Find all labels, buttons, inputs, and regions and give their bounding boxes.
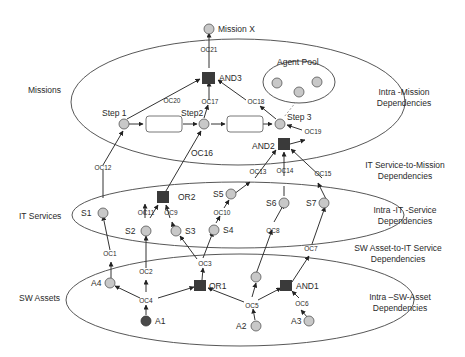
gate-or1[interactable]: [194, 280, 206, 291]
svg-text:AND1: AND1: [296, 281, 319, 291]
svg-text:A1: A1: [155, 316, 166, 326]
svg-text:OC14: OC14: [277, 167, 294, 174]
svg-text:S2: S2: [125, 226, 136, 236]
layer-label-it-services: IT Services: [19, 211, 61, 221]
svg-text:OC5: OC5: [245, 302, 259, 309]
svg-text:OC2: OC2: [139, 268, 153, 275]
svg-text:OC15: OC15: [315, 170, 332, 177]
layer-label-missions: Missions: [28, 85, 61, 95]
svg-text:A4: A4: [91, 278, 102, 288]
svg-text:Step 3: Step 3: [287, 112, 312, 122]
svg-text:S7: S7: [306, 198, 317, 208]
svg-text:OC20: OC20: [164, 97, 181, 104]
node-step1[interactable]: [119, 119, 129, 129]
svg-text:OC8: OC8: [266, 227, 280, 234]
gate-and3[interactable]: [202, 72, 215, 84]
dependency-label-it-to-mission: IT Service-to-Mission Dependencies: [365, 160, 445, 181]
step-process-box-1: [146, 116, 182, 132]
gate-and1[interactable]: [280, 280, 292, 291]
svg-text:Intra -Mission: Intra -Mission: [378, 87, 429, 97]
svg-text:Dependencies: Dependencies: [378, 171, 432, 181]
svg-text:IT Service-to-Mission: IT Service-to-Mission: [365, 160, 445, 170]
oc-labels: OC21 OC20 OC17 OC18 OC19 OC16 OC12 OC13 …: [95, 46, 332, 309]
svg-text:OR2: OR2: [178, 192, 196, 202]
svg-text:Mission X: Mission X: [218, 24, 255, 34]
node-a2[interactable]: [251, 321, 261, 331]
dependency-label-sw-to-it: SW Asset-to-IT Service Dependencies: [354, 243, 442, 264]
svg-text:Intra -IT -Service: Intra -IT -Service: [373, 205, 436, 215]
dependency-label-intra-it: Intra -IT -Service Dependencies: [373, 205, 436, 226]
node-a4[interactable]: [105, 278, 115, 288]
svg-text:Dependencies: Dependencies: [378, 216, 432, 226]
svg-text:OC11: OC11: [138, 209, 155, 216]
svg-text:Step 1: Step 1: [102, 108, 127, 118]
svg-text:S5: S5: [213, 189, 224, 199]
node-s6[interactable]: [279, 198, 289, 208]
svg-text:OC21: OC21: [201, 46, 218, 53]
svg-text:OR1: OR1: [209, 281, 227, 291]
svg-text:Intra –SW-Asset: Intra –SW-Asset: [369, 292, 431, 302]
svg-text:S1: S1: [81, 208, 92, 218]
agent-2[interactable]: [294, 87, 304, 97]
node-s3[interactable]: [171, 226, 181, 236]
layer-label-sw-assets: SW Assets: [19, 293, 60, 303]
agent-1[interactable]: [272, 78, 282, 88]
svg-text:Step2: Step2: [181, 108, 203, 118]
node-s5[interactable]: [226, 189, 236, 199]
gate-or2[interactable]: [157, 191, 169, 203]
svg-text:OC16: OC16: [191, 148, 213, 158]
svg-text:OC17: OC17: [202, 98, 219, 105]
dependency-label-intra-mission: Intra -Mission Dependencies: [377, 87, 431, 108]
node-mission-x[interactable]: [204, 24, 214, 34]
node-step3[interactable]: [275, 119, 285, 129]
node-unlabeled-asset[interactable]: [251, 272, 261, 282]
gate-and2[interactable]: [278, 138, 290, 150]
svg-text:OC3: OC3: [198, 260, 212, 267]
svg-text:A2: A2: [236, 321, 247, 331]
node-s4[interactable]: [209, 225, 219, 235]
dependency-label-intra-sw: Intra –SW-Asset Dependencies: [369, 292, 431, 313]
svg-text:OC1: OC1: [103, 250, 117, 257]
svg-text:OC19: OC19: [305, 128, 322, 135]
missions-layer-ellipse: [71, 39, 405, 165]
svg-text:S6: S6: [266, 198, 277, 208]
svg-text:OC10: OC10: [214, 209, 231, 216]
svg-text:AND2: AND2: [252, 141, 275, 151]
node-s7[interactable]: [319, 198, 329, 208]
agent-3[interactable]: [312, 77, 322, 87]
node-a3[interactable]: [304, 316, 314, 326]
svg-text:Agent Pool: Agent Pool: [277, 57, 319, 67]
svg-text:OC6: OC6: [295, 300, 309, 307]
dependency-diagram: Missions IT Services SW Assets Intra -Mi…: [0, 0, 465, 357]
svg-text:AND3: AND3: [219, 73, 242, 83]
svg-text:OC4: OC4: [139, 297, 153, 304]
svg-text:SW Asset-to-IT Service: SW Asset-to-IT Service: [354, 243, 442, 253]
svg-text:Dependencies: Dependencies: [373, 303, 427, 313]
it-services-layer-ellipse: [72, 182, 404, 248]
svg-text:OC12: OC12: [95, 164, 112, 171]
node-s1[interactable]: [98, 208, 108, 218]
node-step2[interactable]: [199, 119, 209, 129]
svg-text:Dependencies: Dependencies: [377, 98, 431, 108]
step-process-box-2: [227, 116, 263, 132]
svg-text:Dependencies: Dependencies: [371, 254, 425, 264]
svg-text:OC13: OC13: [250, 168, 267, 175]
svg-text:S4: S4: [223, 225, 234, 235]
svg-text:OC18: OC18: [248, 98, 265, 105]
node-a1[interactable]: [141, 316, 151, 326]
svg-text:OC7: OC7: [304, 245, 318, 252]
node-s2[interactable]: [141, 226, 151, 236]
svg-text:A3: A3: [291, 316, 302, 326]
svg-text:S3: S3: [185, 226, 196, 236]
svg-text:OC9: OC9: [164, 209, 178, 216]
